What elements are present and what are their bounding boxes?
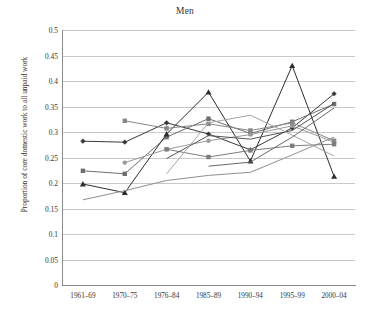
- marker-square: [206, 117, 210, 121]
- chart-container: Men Proportion of core domestic work to …: [0, 0, 370, 320]
- marker-square: [290, 144, 294, 148]
- marker-square: [332, 142, 336, 146]
- marker-square: [123, 119, 127, 123]
- series-layer: [0, 0, 370, 320]
- marker-square: [123, 172, 127, 176]
- marker-triangle: [80, 181, 86, 186]
- marker-square: [81, 169, 85, 173]
- marker-diamond: [122, 140, 127, 145]
- series-line: [83, 137, 334, 200]
- marker-square: [248, 128, 252, 132]
- marker-circle: [248, 132, 252, 136]
- marker-square: [290, 121, 294, 125]
- marker-square: [248, 148, 252, 152]
- marker-circle: [123, 160, 127, 164]
- marker-circle: [206, 139, 210, 143]
- marker-triangle: [206, 89, 212, 94]
- marker-triangle: [289, 63, 295, 68]
- marker-diamond: [80, 139, 85, 144]
- series-series-4: [83, 137, 334, 200]
- marker-triangle: [331, 173, 337, 178]
- series-line: [125, 126, 334, 163]
- series-series-5: [123, 124, 337, 165]
- marker-diamond: [164, 120, 169, 125]
- marker-square: [164, 126, 168, 130]
- marker-square: [206, 155, 210, 159]
- marker-square: [164, 147, 168, 151]
